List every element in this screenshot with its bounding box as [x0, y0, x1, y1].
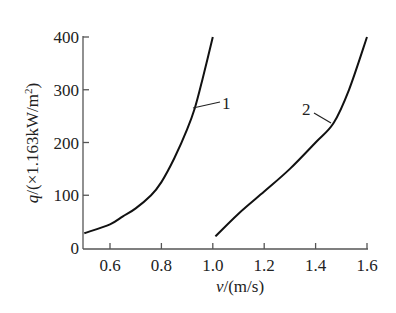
chart: 0100200300400 0.60.81.01.21.41.6 q/(×1.1… [0, 0, 396, 313]
y-axis-unit: /(×1.163kW/m [23, 94, 42, 195]
y-axis-label: q/(×1.163kW/m2) [22, 83, 42, 203]
curve-2-leader [314, 113, 331, 123]
x-tick-label: 1.6 [356, 256, 377, 275]
x-axis-unit: /(m/s) [223, 277, 264, 296]
curve-2 [215, 37, 367, 236]
x-axis-label: v/(m/s) [216, 277, 264, 296]
x-tick-label: 1.0 [202, 256, 223, 275]
y-ticks: 0100200300400 [54, 28, 90, 258]
x-tick-label: 0.8 [151, 256, 172, 275]
curve-1 [84, 37, 213, 233]
y-tick-label: 400 [54, 28, 80, 47]
y-tick-label: 100 [54, 186, 80, 205]
axes [83, 36, 368, 249]
x-tick-label: 1.4 [305, 256, 327, 275]
y-axis-close: ) [23, 83, 42, 89]
curve-2-label: 2 [302, 100, 311, 119]
x-ticks: 0.60.81.01.21.41.6 [99, 243, 377, 275]
curve-1-label: 1 [222, 94, 231, 113]
y-tick-label: 200 [54, 134, 80, 153]
x-tick-label: 1.2 [254, 256, 275, 275]
y-tick-label: 0 [71, 239, 80, 258]
y-tick-label: 300 [54, 81, 80, 100]
x-tick-label: 0.6 [99, 256, 120, 275]
